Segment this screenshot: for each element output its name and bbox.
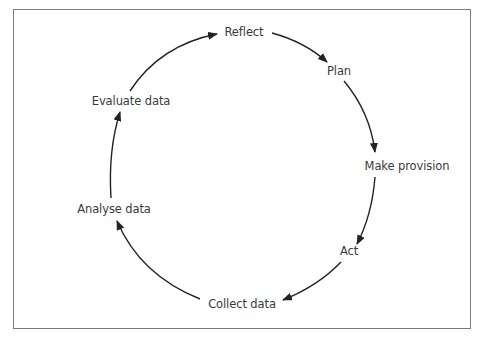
node-evaluate-data: Evaluate data bbox=[92, 94, 171, 108]
node-analyse-data: Analyse data bbox=[77, 202, 151, 216]
arrow-analyse-data-to-evaluate-data bbox=[110, 112, 120, 198]
node-act: Act bbox=[340, 244, 358, 258]
node-reflect: Reflect bbox=[225, 25, 264, 39]
arrow-make-provision-to-act bbox=[357, 177, 375, 244]
arrow-collect-data-to-analyse-data bbox=[117, 221, 200, 299]
node-make-provision: Make provision bbox=[365, 159, 450, 173]
node-collect-data: Collect data bbox=[208, 297, 276, 311]
arrow-evaluate-data-to-reflect bbox=[130, 34, 217, 91]
arrow-plan-to-make-provision bbox=[344, 81, 375, 152]
arrow-act-to-collect-data bbox=[283, 262, 341, 300]
node-plan: Plan bbox=[327, 64, 351, 78]
arrow-reflect-to-plan bbox=[272, 33, 327, 62]
